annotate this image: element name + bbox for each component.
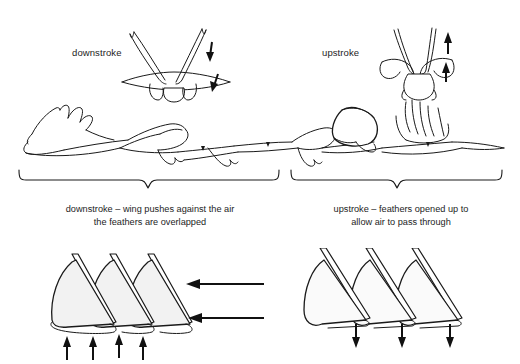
flight-frame-4 xyxy=(234,128,336,166)
caption-downstroke-line1: downstroke – wing pushes against the air xyxy=(28,203,272,216)
figure-root: downstroke upstroke downstroke – wing pu… xyxy=(0,0,520,364)
caption-downstroke-line2: the feathers are overlapped xyxy=(28,216,272,229)
flight-frame-5 xyxy=(322,108,382,153)
downstroke-front-view xyxy=(118,12,240,104)
caption-downstroke: downstroke – wing pushes against the air… xyxy=(28,203,272,229)
air-arrow-up-2 xyxy=(89,336,97,360)
air-arrow-down-1 xyxy=(352,324,360,348)
caption-upstroke-line2: allow air to pass through xyxy=(296,216,506,229)
air-arrow-horizontal-upper xyxy=(186,279,264,289)
air-arrow-up-1 xyxy=(63,336,71,360)
air-arrow-up-3 xyxy=(115,334,123,358)
brace-row xyxy=(0,168,520,198)
upstroke-front-view xyxy=(374,12,482,104)
upstroke-arrow-upper xyxy=(444,32,452,54)
caption-upstroke-line1: upstroke – feathers opened up to xyxy=(296,203,506,216)
caption-upstroke: upstroke – feathers opened up to allow a… xyxy=(296,203,506,229)
upstroke-arrow-lower xyxy=(442,62,450,82)
upstroke-brace xyxy=(291,170,502,188)
label-upstroke: upstroke xyxy=(322,47,359,58)
downstroke-brace xyxy=(19,170,279,188)
label-downstroke: downstroke xyxy=(72,47,122,58)
flight-frame-6 xyxy=(382,100,504,154)
flight-sequence-side-view xyxy=(8,96,512,168)
flight-frame-2 xyxy=(120,124,188,164)
flight-frame-1 xyxy=(24,105,128,156)
air-arrow-down-3 xyxy=(446,324,454,348)
downstroke-arrow-upper xyxy=(206,42,214,62)
flight-frame-3 xyxy=(178,146,238,166)
overlapped-feathers-diagram xyxy=(40,248,270,364)
air-arrow-up-4 xyxy=(139,336,147,360)
opened-feathers-diagram xyxy=(300,248,514,364)
air-arrow-down-2 xyxy=(398,324,406,348)
air-arrow-horizontal-lower xyxy=(188,313,264,323)
